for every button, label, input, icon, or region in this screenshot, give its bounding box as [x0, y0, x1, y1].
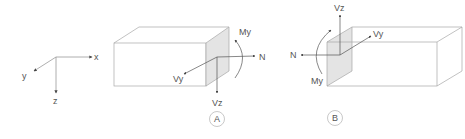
force-b-vy-label: Vy: [373, 29, 384, 39]
force-a-vy-label: Vy: [173, 74, 184, 84]
force-a-vz-label: Vz: [212, 98, 223, 108]
panel-b: Vz Vy N My B: [290, 3, 462, 126]
force-b-n-label: N: [290, 50, 297, 60]
beam-a: [114, 27, 229, 86]
moment-a-my-arc: [235, 40, 243, 78]
y-axis-label: y: [22, 71, 27, 81]
beam-b-bottom-right-edge: [437, 71, 462, 86]
beam-a-top-left-edge: [114, 27, 139, 43]
moment-a-my-label: My: [239, 27, 251, 37]
coordinate-axes: x y z: [22, 52, 99, 106]
panel-a-label: A: [214, 114, 220, 124]
x-axis-label: x: [94, 52, 99, 62]
beam-a-front-face: [114, 43, 206, 86]
beam-b: [327, 27, 462, 86]
beam-b-cut-face: [327, 27, 352, 86]
panel-a: N Vy Vz My A: [114, 27, 266, 127]
force-a-n-label: N: [259, 52, 266, 62]
z-axis-label: z: [53, 96, 58, 106]
beam-b-top-right-edge: [437, 27, 462, 42]
internal-forces-diagram: x y z N Vy Vz My A: [0, 0, 465, 139]
moment-b-my-label: My: [311, 76, 323, 86]
panel-b-label: B: [332, 113, 338, 123]
y-axis: [34, 57, 56, 71]
force-b-vz-label: Vz: [334, 3, 345, 13]
